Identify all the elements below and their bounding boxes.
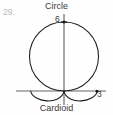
cardioid-curve-label: Cardioid <box>0 104 113 113</box>
axis-value-three-label: 3 <box>97 90 102 99</box>
cardioid-left-lobe <box>31 91 64 101</box>
cardioid-right-lobe <box>64 91 97 101</box>
point-marker-six <box>63 21 66 24</box>
axis-value-six-label: 6 <box>55 15 60 24</box>
polar-graph-figure: 29. Circle 6 3 Cardioid <box>0 0 113 115</box>
circle-curve-label: Circle <box>0 2 113 11</box>
